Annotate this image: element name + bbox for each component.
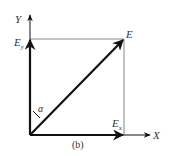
y-component-label: Ey <box>13 36 25 51</box>
x-axis-label: X <box>152 129 161 141</box>
y-axis-label: Y <box>15 13 23 25</box>
angle-label: α <box>38 103 44 114</box>
x-component-label: Ex <box>111 117 123 132</box>
vector-label: E <box>125 28 133 40</box>
vector-diagram: Y X E Ey Ex α (b) <box>0 0 169 156</box>
resultant-vector <box>30 40 123 135</box>
figure-caption: (b) <box>72 139 84 151</box>
